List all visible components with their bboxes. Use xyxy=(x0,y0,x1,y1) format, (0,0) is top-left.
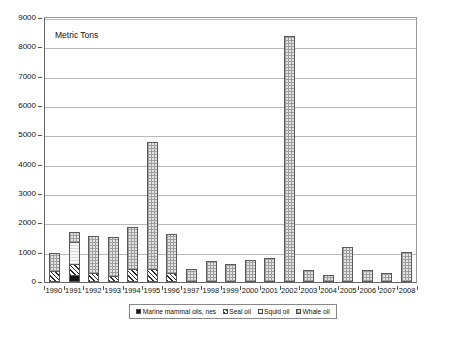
x-axis-tick-label: 2007 xyxy=(378,286,398,302)
y-axis-tick-mark xyxy=(38,253,42,254)
legend-label: Marine mammal oils, nes xyxy=(143,308,216,315)
legend-swatch-marine-icon xyxy=(136,309,141,314)
y-axis-tick-mark xyxy=(38,106,42,107)
bar-segment xyxy=(147,269,158,282)
x-axis-tick-mark xyxy=(417,286,418,290)
y-axis-tick-label: 6000 xyxy=(18,102,36,110)
legend-label: Whale oil xyxy=(303,308,330,315)
x-axis-tick-label: 1999 xyxy=(221,286,241,302)
bar-segment xyxy=(108,237,119,275)
x-axis-tick-mark xyxy=(338,286,339,290)
y-axis-tick-mark xyxy=(38,77,42,78)
stacked-bar xyxy=(303,270,314,282)
stacked-bar xyxy=(108,237,119,282)
bar-column xyxy=(162,18,182,282)
bar-segment xyxy=(49,271,60,282)
stacked-bar xyxy=(225,264,236,282)
x-axis-tick-label: 2004 xyxy=(319,286,339,302)
x-axis-tick-mark xyxy=(201,286,202,290)
bar-column xyxy=(358,18,378,282)
legend-label: Squid oil xyxy=(264,308,289,315)
x-axis-tick-mark xyxy=(64,286,65,290)
x-axis-tick-mark xyxy=(142,286,143,290)
x-axis-tick-label: 2000 xyxy=(240,286,260,302)
y-axis-tick-mark xyxy=(38,18,42,19)
stacked-bar xyxy=(401,252,412,282)
bar-column xyxy=(221,18,241,282)
x-axis-tick-mark xyxy=(299,286,300,290)
bar-column xyxy=(299,18,319,282)
bar-column xyxy=(182,18,202,282)
y-axis-tick-mark xyxy=(38,194,42,195)
y-axis-tick-mark xyxy=(38,165,42,166)
legend-swatch-squid-icon xyxy=(258,309,263,314)
bar-column xyxy=(397,18,417,282)
y-axis-tick-label: 7000 xyxy=(18,73,36,81)
bar-column xyxy=(143,18,163,282)
bar-segment xyxy=(401,252,412,282)
x-axis-tick-label: 1996 xyxy=(162,286,182,302)
stacked-bar xyxy=(147,142,158,282)
y-axis-tick-mark xyxy=(38,47,42,48)
bar-column xyxy=(338,18,358,282)
y-axis-tick-label: 2000 xyxy=(18,219,36,227)
bar-segment xyxy=(69,275,80,282)
stacked-bar xyxy=(49,253,60,282)
bar-segment xyxy=(186,269,197,282)
x-axis-tick-label: 1991 xyxy=(64,286,84,302)
x-axis: 1990199119921993199419951996199719981999… xyxy=(44,286,417,302)
x-axis-tick-label: 1997 xyxy=(181,286,201,302)
bar-segment xyxy=(69,242,80,264)
bar-segment xyxy=(69,264,80,275)
x-axis-tick-mark xyxy=(83,286,84,290)
stacked-bar xyxy=(166,234,177,282)
bar-column xyxy=(45,18,65,282)
bar-segment xyxy=(88,236,99,274)
bar-segment xyxy=(362,270,373,282)
bar-segment xyxy=(108,276,119,282)
plot-area: Metric Tons xyxy=(44,17,417,283)
bar-segment xyxy=(166,273,177,282)
stacked-bar xyxy=(206,261,217,282)
bar-column xyxy=(377,18,397,282)
stacked-bar xyxy=(88,236,99,282)
stacked-bar xyxy=(127,227,138,282)
legend-swatch-whale-icon xyxy=(296,309,301,314)
y-axis-tick-label: 9000 xyxy=(18,14,36,22)
legend-item: Whale oil xyxy=(296,308,330,315)
y-axis-tick-label: 8000 xyxy=(18,43,36,51)
bar-segment xyxy=(127,269,138,282)
bar-segment xyxy=(303,270,314,282)
bar-column xyxy=(260,18,280,282)
bar-series-group xyxy=(45,18,416,282)
x-axis-tick-label: 1994 xyxy=(123,286,143,302)
stacked-bar xyxy=(245,260,256,282)
x-axis-tick-mark xyxy=(181,286,182,290)
bar-segment xyxy=(264,258,275,282)
x-axis-tick-mark xyxy=(280,286,281,290)
x-axis-tick-mark xyxy=(240,286,241,290)
bar-column xyxy=(279,18,299,282)
y-axis-tick-label: 0 xyxy=(32,278,36,286)
y-axis-tick-label: 1000 xyxy=(18,249,36,257)
x-axis-tick-label: 1995 xyxy=(142,286,162,302)
x-axis-tick-label: 2001 xyxy=(260,286,280,302)
bar-segment xyxy=(381,273,392,282)
bar-column xyxy=(201,18,221,282)
bar-column xyxy=(123,18,143,282)
bar-segment xyxy=(284,36,295,282)
x-axis-tick-mark xyxy=(103,286,104,290)
y-axis: 0100020003000400050006000700080009000 xyxy=(0,17,42,283)
bar-segment xyxy=(147,142,158,269)
x-axis-tick-label: 2006 xyxy=(358,286,378,302)
x-axis-tick-label: 2005 xyxy=(338,286,358,302)
x-axis-tick-label: 2002 xyxy=(280,286,300,302)
x-axis-tick-mark xyxy=(358,286,359,290)
x-axis-tick-mark xyxy=(397,286,398,290)
bar-column xyxy=(104,18,124,282)
bar-segment xyxy=(166,234,177,273)
x-axis-tick-mark xyxy=(162,286,163,290)
legend-swatch-seal-icon xyxy=(223,309,228,314)
stacked-bar xyxy=(264,258,275,282)
x-axis-tick-mark xyxy=(44,286,45,290)
